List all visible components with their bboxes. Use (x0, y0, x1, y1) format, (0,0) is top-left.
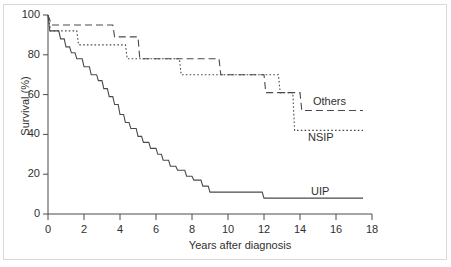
x-tick-label-18: 18 (358, 224, 386, 235)
x-tick-label-16: 16 (322, 224, 350, 235)
x-axis-title: Years after diagnosis (150, 239, 330, 251)
series-label-nsip: NSIP (308, 132, 334, 143)
x-tick-label-0: 0 (34, 224, 62, 235)
x-tick-label-12: 12 (250, 224, 278, 235)
x-tick-label-2: 2 (70, 224, 98, 235)
curve-nsip (48, 15, 363, 130)
y-tick-label-100: 100 (8, 9, 40, 20)
x-tick-label-14: 14 (286, 224, 314, 235)
y-tick-label-20: 20 (8, 168, 40, 179)
survival-chart-figure: 100 80 60 40 20 0 0 2 4 6 8 10 12 14 16 … (0, 0, 451, 267)
x-tick-label-6: 6 (142, 224, 170, 235)
y-tick-label-80: 80 (8, 49, 40, 60)
x-tick-label-8: 8 (178, 224, 206, 235)
y-axis-title: Survival (%) (19, 61, 31, 151)
y-axis-ticks (43, 15, 48, 214)
x-tick-label-4: 4 (106, 224, 134, 235)
series-label-uip: UIP (311, 186, 329, 197)
series-label-others: Others (313, 96, 346, 107)
x-axis-ticks (48, 214, 372, 220)
y-tick-label-0: 0 (8, 208, 40, 219)
x-tick-label-10: 10 (214, 224, 242, 235)
